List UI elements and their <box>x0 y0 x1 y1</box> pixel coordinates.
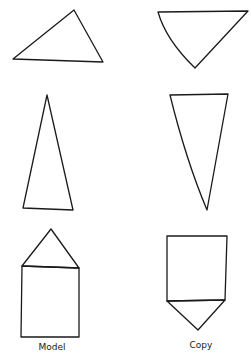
model-house-roof <box>22 229 79 268</box>
model-house-body <box>21 266 79 337</box>
drawing-canvas <box>0 0 251 359</box>
copy-label: Copy <box>190 340 213 350</box>
model-house <box>21 229 79 337</box>
copy-triangle-2 <box>170 94 228 210</box>
model-triangle-1 <box>13 10 103 62</box>
copy-house-body <box>167 236 227 301</box>
copy-house-roof-inverted <box>167 300 225 330</box>
model-triangle-2 <box>23 95 73 210</box>
copy-house <box>167 236 227 330</box>
copy-triangle-1 <box>158 11 248 68</box>
model-label: Model <box>38 342 65 352</box>
